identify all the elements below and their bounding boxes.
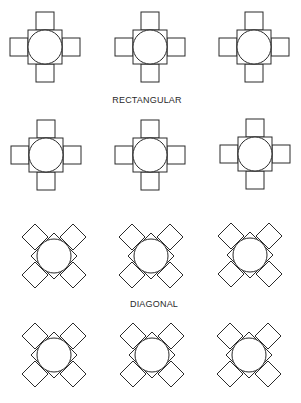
chair [167,38,185,56]
table-top [232,338,266,372]
chair [10,38,28,56]
table-group-diagonal [22,224,86,288]
table-top [133,138,167,172]
table-group-rectangular [115,120,185,190]
chair [245,64,263,82]
chair [37,172,55,190]
table-group-diagonal [217,323,281,387]
chair [115,38,133,56]
table-group-diagonal [218,223,282,287]
chair [141,12,159,30]
chair [62,38,80,56]
table-group-diagonal [119,224,183,288]
chair [11,146,29,164]
chair [36,12,54,30]
chair [63,146,81,164]
table-top [237,30,271,64]
table-top [134,239,168,273]
chair [37,120,55,138]
chair [219,38,237,56]
chair [271,38,289,56]
section-label-rectangular: RECTANGULAR [112,95,182,105]
section-label-diagonal: DIAGONAL [130,299,178,309]
chair [36,64,54,82]
table-group-diagonal [22,323,86,387]
table-top [37,239,71,273]
table-group-rectangular [219,12,289,82]
table-group-diagonal [120,323,184,387]
chair [167,146,185,164]
table-top [135,338,169,372]
table-top [233,238,267,272]
table-group-rectangular [11,120,81,190]
table-top [28,30,62,64]
table-group-rectangular [220,119,290,189]
table-top [37,338,71,372]
table-group-rectangular [115,12,185,82]
chair [246,119,264,137]
seating-diagram [0,0,301,403]
table-top [238,137,272,171]
table-top [29,138,63,172]
chair [141,172,159,190]
chair [245,12,263,30]
clipped-caption-line [0,397,301,403]
table-group-rectangular [10,12,80,82]
chair [115,146,133,164]
chair [220,145,238,163]
chair [246,171,264,189]
table-top [133,30,167,64]
chair [141,120,159,138]
chair [141,64,159,82]
chair [272,145,290,163]
